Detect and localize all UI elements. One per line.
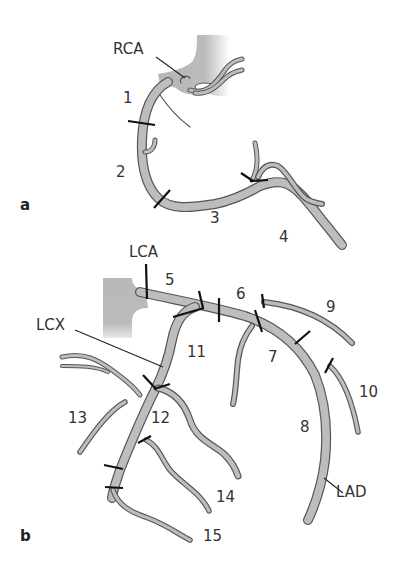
segment-10-label: 10 (359, 383, 378, 401)
segment-9-label: 9 (326, 298, 336, 316)
tick-7-8 (295, 331, 310, 344)
segment-11-label: 11 (187, 343, 206, 361)
segment-6-label: 6 (236, 285, 246, 303)
segment-7-label: 7 (268, 348, 278, 366)
tick-lca-ostium (146, 264, 147, 299)
lad-label: LAD (336, 483, 367, 501)
panel-b-lca: LCA LCX LAD 5 6 7 8 9 10 11 12 13 14 15 … (20, 243, 378, 545)
tick-rca-3-4b (250, 180, 268, 181)
segment-1-label: 1 (123, 89, 133, 107)
aortic-root-b (103, 278, 148, 338)
segment-4-label: 4 (279, 228, 289, 246)
segment-12-label: 12 (151, 409, 170, 427)
segment-15-label: 15 (203, 527, 222, 545)
segment-3-label: 3 (210, 209, 220, 227)
tick-9 (262, 294, 264, 308)
segment-13-label: 13 (68, 409, 87, 427)
lcx-label: LCX (36, 316, 65, 334)
segment-14-label: 14 (216, 488, 235, 506)
tick-15 (105, 487, 123, 488)
coronary-artery-diagram: RCA 1 2 3 4 a (0, 0, 410, 574)
panel-a-rca: RCA 1 2 3 4 a (20, 35, 342, 246)
segment-5-label: 5 (165, 271, 175, 289)
segment-8-label: 8 (300, 418, 310, 436)
lca-label: LCA (129, 243, 159, 261)
rca-label: RCA (113, 40, 144, 58)
segment-2-label: 2 (116, 163, 126, 181)
panel-b-label: b (20, 527, 31, 545)
panel-a-label: a (20, 196, 30, 214)
